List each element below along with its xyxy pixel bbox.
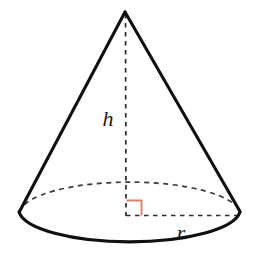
cone-figure: h r xyxy=(0,0,259,264)
right-slant-edge xyxy=(125,12,240,212)
radius-label: r xyxy=(177,220,186,245)
right-angle-marker-icon xyxy=(127,201,142,216)
base-ellipse-front-arc xyxy=(19,212,240,242)
base-ellipse-back-arc-dashed xyxy=(19,182,240,212)
height-measure-line xyxy=(126,14,127,216)
height-label: h xyxy=(103,106,114,131)
cone-diagram-canvas: h r xyxy=(0,0,259,264)
